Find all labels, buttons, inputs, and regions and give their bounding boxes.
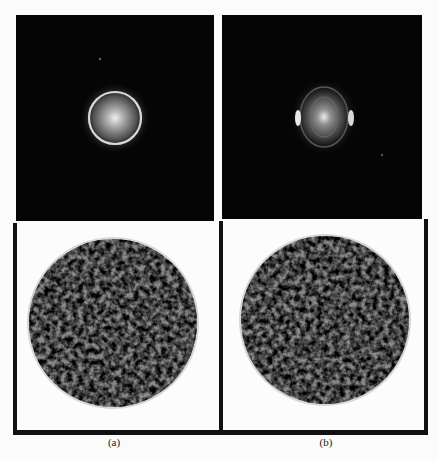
- caption-a: (a): [94, 436, 134, 448]
- diffraction-image-b: [222, 15, 422, 219]
- density-map-b: [223, 219, 424, 430]
- frame-bottom-border: [13, 430, 428, 435]
- diffraction-image-a: [16, 15, 214, 221]
- caption-b: (b): [306, 436, 346, 448]
- diffraction-pattern-a: [16, 15, 214, 221]
- frame-right-border: [424, 219, 428, 435]
- reconstruction-b: [223, 219, 424, 430]
- reconstruction-a: [17, 221, 219, 430]
- diffraction-pattern-b: [222, 15, 422, 219]
- density-map-a: [17, 221, 219, 430]
